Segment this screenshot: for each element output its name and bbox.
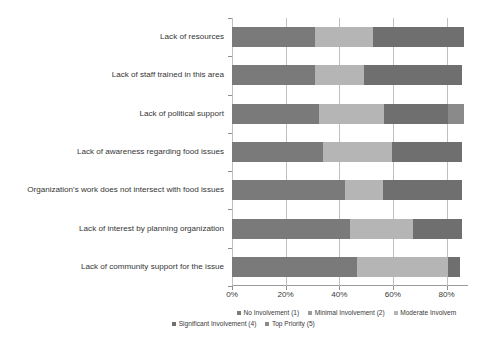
bar-segment xyxy=(364,65,461,85)
category-label: Lack of staff trained in this area xyxy=(10,70,224,80)
bar-segment xyxy=(232,65,315,85)
bar-segment xyxy=(384,104,447,124)
legend-swatch-icon xyxy=(172,322,176,326)
plot-area xyxy=(232,18,468,286)
y-tick xyxy=(228,133,232,134)
legend-label: Top Priority (5) xyxy=(272,320,315,328)
bar-segment xyxy=(413,219,461,239)
bar-row xyxy=(232,65,462,85)
x-axis-line xyxy=(232,285,468,286)
legend-item[interactable]: No Involvement (1) xyxy=(237,309,299,317)
x-tick-label: 20% xyxy=(278,290,294,300)
bar-segment xyxy=(232,180,345,200)
bar-segment xyxy=(448,257,460,277)
legend-label: Minimal Involvement (2) xyxy=(315,309,385,317)
y-tick xyxy=(228,209,232,210)
bar-segment xyxy=(323,142,391,162)
y-tick xyxy=(228,171,232,172)
category-label: Lack of interest by planning organizatio… xyxy=(10,224,224,234)
bar-segment xyxy=(350,219,413,239)
x-tick-label: 40% xyxy=(331,290,347,300)
bar-row xyxy=(232,257,460,277)
bar-segment xyxy=(345,180,383,200)
x-tick-label: 60% xyxy=(385,290,401,300)
category-label: Organization's work does not intersect w… xyxy=(10,185,224,195)
legend-swatch-icon xyxy=(308,311,312,315)
legend-label: Moderate Involvem xyxy=(400,309,456,317)
y-tick xyxy=(228,56,232,57)
category-label: Lack of community support for the issue xyxy=(10,262,224,272)
bar-segment xyxy=(232,257,357,277)
bar-segment xyxy=(448,104,464,124)
bar-segment xyxy=(319,104,384,124)
y-tick xyxy=(228,18,232,19)
category-axis-labels: Lack of resourcesLack of staff trained i… xyxy=(8,18,228,286)
stacked-bar-chart: Lack of resourcesLack of staff trained i… xyxy=(0,0,487,342)
y-tick xyxy=(228,286,232,287)
legend-row-2: Significant Involvement (4)Top Priority … xyxy=(0,318,487,329)
category-label: Lack of political support xyxy=(10,109,224,119)
legend-label: No Involvement (1) xyxy=(244,309,300,317)
bar-segment xyxy=(392,142,462,162)
y-tick xyxy=(228,95,232,96)
legend-swatch-icon xyxy=(265,322,269,326)
legend-row-1: No Involvement (1)Minimal Involvement (2… xyxy=(0,307,487,318)
category-label: Lack of resources xyxy=(10,32,224,42)
bar-row xyxy=(232,104,464,124)
bar-segment xyxy=(357,257,447,277)
bar-row xyxy=(232,180,462,200)
legend-item[interactable]: Top Priority (5) xyxy=(265,320,314,328)
legend-swatch-icon xyxy=(237,311,241,315)
bar-segment xyxy=(315,65,364,85)
bar-segment xyxy=(373,27,464,47)
bar-segment xyxy=(232,219,350,239)
y-tick xyxy=(228,248,232,249)
bar-segment xyxy=(232,142,323,162)
legend-swatch-icon xyxy=(394,311,398,315)
bar-segment xyxy=(315,27,373,47)
chart-legend: No Involvement (1)Minimal Involvement (2… xyxy=(0,307,487,329)
category-label: Lack of awareness regarding food issues xyxy=(10,147,224,157)
bar-segment xyxy=(383,180,461,200)
legend-item[interactable]: Significant Involvement (4) xyxy=(172,320,256,328)
x-axis-tick-labels: 0%20%40%60%80% xyxy=(232,290,468,304)
x-tick-label: 0% xyxy=(226,290,238,300)
legend-item[interactable]: Minimal Involvement (2) xyxy=(308,309,385,317)
x-tick-label: 80% xyxy=(438,290,454,300)
bar-row xyxy=(232,27,464,47)
legend-item[interactable]: Moderate Involvem xyxy=(394,309,457,317)
bar-row xyxy=(232,219,462,239)
legend-label: Significant Involvement (4) xyxy=(179,320,257,328)
bar-segment xyxy=(232,104,319,124)
bar-segment xyxy=(232,27,315,47)
bar-row xyxy=(232,142,462,162)
